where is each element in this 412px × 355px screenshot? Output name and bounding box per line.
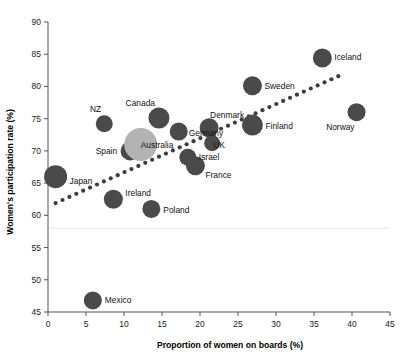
trendline-dot: [316, 83, 320, 87]
trendline-dot: [116, 173, 120, 177]
trendline-dot: [281, 99, 285, 103]
trendline-dot: [267, 105, 271, 109]
y-tick-label: 65: [32, 178, 42, 188]
scatter-chart: 45505560657075808590 051015202530354045 …: [0, 0, 412, 355]
y-tick-label: 85: [32, 49, 42, 59]
trendline-dot: [191, 139, 195, 143]
trendline-dot: [67, 195, 71, 199]
bubble-nz[interactable]: [96, 115, 113, 132]
bubble-germany[interactable]: [170, 123, 188, 141]
x-tick-label: 20: [195, 319, 205, 329]
point-label-denmark: Denmark: [210, 110, 245, 120]
trendline-dot: [185, 142, 189, 146]
trendline-dot: [336, 74, 340, 78]
trendline-dot: [157, 155, 161, 159]
y-tick-label: 70: [32, 146, 42, 156]
trendline-dot: [143, 161, 147, 165]
y-tick-label: 45: [32, 307, 42, 317]
point-label-ireland: Ireland: [125, 188, 151, 198]
trendline-dot: [60, 198, 64, 202]
trendline-dot: [322, 80, 326, 84]
y-tick-label: 55: [32, 243, 42, 253]
trendline-dot: [129, 167, 133, 171]
point-label-france: France: [205, 170, 231, 180]
x-tick-label: 0: [46, 319, 51, 329]
bubble-japan[interactable]: [44, 165, 67, 188]
trendline-dot: [302, 90, 306, 94]
trendline-dot: [329, 77, 333, 81]
y-tick-label: 60: [32, 210, 42, 220]
point-label-spain: Spain: [96, 146, 118, 156]
bubble-norway[interactable]: [348, 103, 366, 121]
point-label-sweden: Sweden: [264, 81, 295, 91]
y-tick-label: 50: [32, 275, 42, 285]
trendline-dot: [136, 164, 140, 168]
trendline-dot: [102, 179, 106, 183]
chart-canvas: 45505560657075808590 051015202530354045 …: [0, 0, 412, 355]
point-label-israel: Israel: [199, 152, 220, 162]
y-tick-label: 80: [32, 81, 42, 91]
trendline-dot: [88, 186, 92, 190]
point-label-canada: Canada: [126, 98, 156, 108]
x-tick-label: 40: [347, 319, 357, 329]
x-tick-label: 15: [157, 319, 167, 329]
y-tick-label: 75: [32, 114, 42, 124]
x-axis-title: Proportion of women on boards (%): [157, 340, 303, 350]
trendline-dot: [260, 108, 264, 112]
bubble-ireland[interactable]: [104, 190, 123, 209]
point-label-germany: Germany: [189, 128, 224, 138]
x-tick-label: 45: [385, 319, 395, 329]
trendline-dot: [122, 170, 126, 174]
x-tick-label: 5: [84, 319, 89, 329]
trendline-dot: [109, 176, 113, 180]
y-tick-label: 90: [32, 17, 42, 27]
point-label-japan: Japan: [70, 176, 93, 186]
point-label-uk: UK: [213, 140, 225, 150]
x-tick-label: 10: [119, 319, 129, 329]
point-label-poland: Poland: [163, 205, 189, 215]
x-tick-label: 30: [271, 319, 281, 329]
point-label-iceland: Iceland: [334, 52, 361, 62]
point-label-mexico: Mexico: [105, 295, 132, 305]
point-label-finland: Finland: [265, 121, 293, 131]
trendline-dot: [226, 124, 230, 128]
trendline-dot: [54, 201, 58, 205]
trendline-dot: [295, 93, 299, 97]
point-label-australia: Australia: [141, 140, 174, 150]
bubble-mexico[interactable]: [84, 291, 102, 309]
x-tick-label: 25: [233, 319, 243, 329]
trendline-dot: [309, 86, 313, 90]
x-tick-label: 35: [309, 319, 319, 329]
trendline-dot: [81, 189, 85, 193]
bubble-canada[interactable]: [148, 108, 169, 129]
y-axis-title: Women's participation rate (%): [5, 109, 15, 235]
trendline-dot: [150, 158, 154, 162]
point-label-norway: Norway: [326, 122, 355, 132]
bubble-sweden[interactable]: [243, 76, 262, 95]
trendline-dot: [233, 120, 237, 124]
trendline-dot: [288, 96, 292, 100]
bubble-iceland[interactable]: [313, 49, 332, 68]
bubble-poland[interactable]: [142, 200, 160, 218]
bubble-finland[interactable]: [242, 115, 263, 136]
point-label-nz: NZ: [90, 104, 101, 114]
trendline-dot: [178, 145, 182, 149]
trendline-dot: [164, 151, 168, 155]
trendline-dot: [74, 192, 78, 196]
trendline-dot: [274, 102, 278, 106]
trendline-dot: [95, 182, 99, 186]
